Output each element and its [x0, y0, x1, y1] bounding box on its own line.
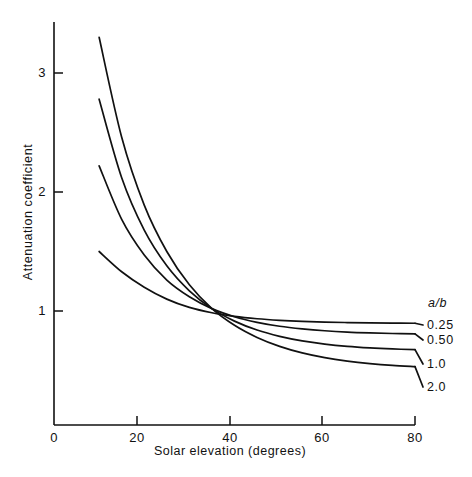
legend-label-2.0: 2.0: [427, 380, 446, 394]
x-tick-label-20: 20: [120, 430, 154, 445]
curve-0.25: [99, 252, 415, 324]
x-tick-label-60: 60: [305, 430, 339, 445]
legend-label-0.50: 0.50: [427, 333, 454, 347]
legend-leader-2.0: [415, 367, 423, 387]
legend-leader-1.0: [415, 350, 423, 364]
y-tick-label-1: 1: [24, 303, 46, 318]
curve-0.50: [99, 166, 415, 334]
legend-leader-0.25: [415, 323, 423, 325]
y-tick-label-3: 3: [24, 65, 46, 80]
data-curves: [99, 37, 415, 366]
legend-label-0.25: 0.25: [427, 318, 454, 332]
x-tick-label-40: 40: [213, 430, 247, 445]
x-tick-label-0: 0: [37, 430, 71, 445]
curve-2.0: [99, 37, 415, 366]
legend-lines: [415, 323, 423, 387]
y-axis-title: Attenuation coefficient: [21, 122, 35, 302]
curve-1.0: [99, 99, 415, 350]
plot-area: [0, 0, 472, 477]
legend-title: a/b: [428, 296, 447, 310]
x-axis-title: Solar elevation (degrees): [110, 444, 350, 458]
legend-leader-0.50: [415, 334, 423, 340]
y-axis-ticks: [54, 73, 63, 311]
x-axis-ticks: [137, 416, 415, 425]
legend-label-1.0: 1.0: [427, 357, 446, 371]
x-tick-label-80: 80: [398, 430, 432, 445]
attenuation-coefficient-chart: 3 2 1 0 20 40 60 80 Attenuation coeffici…: [0, 0, 472, 477]
